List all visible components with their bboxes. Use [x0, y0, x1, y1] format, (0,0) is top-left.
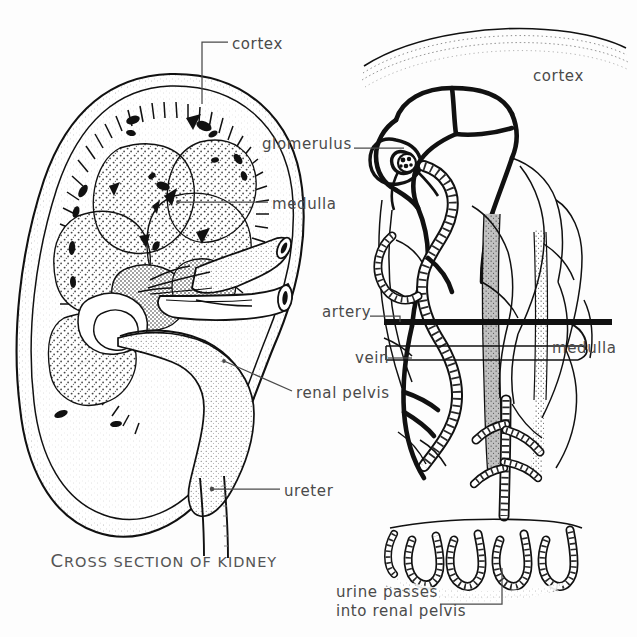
label-artery: artery — [322, 303, 371, 322]
label-ureter: ureter — [284, 482, 333, 501]
caption-first-letter: C — [50, 550, 64, 571]
label-cortex-left: cortex — [232, 35, 283, 54]
label-cortex-right: cortex — [533, 67, 584, 86]
glomerulus-tuft — [398, 154, 416, 172]
caption-rest: ROSS SECTION OF KIDNEY — [64, 554, 277, 570]
label-renal-pelvis: renal pelvis — [296, 384, 390, 403]
kidney-anatomy-figure: cortex medulla renal pelvis ureter CROSS… — [0, 0, 637, 637]
label-urine-passes-into-renal-pelvis: urine passes into renal pelvis — [336, 583, 466, 621]
label-vein: vein — [355, 349, 389, 368]
label-medulla-left: medulla — [272, 195, 337, 214]
label-glomerulus: glomerulus — [262, 135, 352, 154]
label-medulla-right: medulla — [552, 339, 617, 358]
caption-cross-section-of-kidney: CROSS SECTION OF KIDNEY — [28, 534, 277, 587]
